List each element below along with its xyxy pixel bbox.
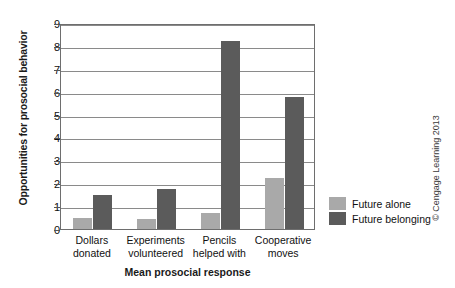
x-category-label-line: donated [60,247,124,260]
legend-swatch [329,197,346,210]
legend-item: Future belonging [329,211,431,226]
x-category-label-line: volunteered [124,247,188,260]
x-axis-title: Mean prosocial response [60,266,315,278]
gridline [61,48,314,49]
gridline [61,94,314,95]
gridline [61,139,314,140]
x-category-label-line: Pencils [188,234,252,247]
copyright-credit: © Cengage Learning 2013 [431,88,441,248]
x-category-label-line: Experiments [124,234,188,247]
bar [285,97,304,229]
gridline [61,117,314,118]
legend-label: Future alone [352,198,411,210]
legend-label: Future belonging [352,213,431,225]
bar [157,189,176,229]
x-category-label: Pencilshelped with [188,234,252,259]
bar [265,178,284,230]
bar [201,213,220,229]
bar [137,219,156,229]
y-axis-ticks: 0123456789 [0,0,60,288]
legend-swatch [329,212,346,225]
bar [73,218,92,229]
x-category-label: Dollarsdonated [60,234,124,259]
legend-item: Future alone [329,196,431,211]
x-category-label-line: helped with [188,247,252,260]
legend: Future aloneFuture belonging [329,196,431,226]
bar [221,41,240,229]
x-category-label: Experimentsvolunteered [124,234,188,259]
y-tick-mark [54,230,60,231]
gridline [61,71,314,72]
plot-area [60,24,315,230]
x-category-label-line: Dollars [60,234,124,247]
bar-chart-figure: Opportunities for prosocial behavior 012… [0,0,455,288]
x-category-label: Cooperativemoves [251,234,315,259]
gridline [61,162,314,163]
x-category-label-line: moves [251,247,315,260]
x-category-label-line: Cooperative [251,234,315,247]
gridline [61,25,314,26]
bar [93,195,112,229]
